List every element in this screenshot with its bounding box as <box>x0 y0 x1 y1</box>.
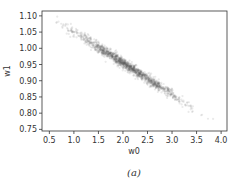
x-tick-label: 1.5 <box>92 136 105 145</box>
x-tick-label: 3.0 <box>166 136 179 145</box>
y-axis-label: w1 <box>3 65 12 77</box>
x-tick-label: 4.0 <box>215 136 228 145</box>
y-tick-label: 1.05 <box>19 28 37 37</box>
scatter-points <box>55 16 214 120</box>
y-tick-label: 0.85 <box>19 93 37 102</box>
x-tick-label: 2.5 <box>141 136 154 145</box>
y-tick-label: 0.75 <box>19 125 37 134</box>
y-tick-label: 1.00 <box>19 44 37 53</box>
x-axis-ticks: 0.51.01.52.02.53.03.54.0 <box>43 131 227 145</box>
figure-caption: (a) <box>127 167 141 178</box>
x-tick-label: 2.0 <box>117 136 130 145</box>
y-tick-label: 0.95 <box>19 61 37 70</box>
x-axis-label: w0 <box>128 147 140 156</box>
y-tick-label: 0.90 <box>19 77 37 86</box>
x-tick-label: 0.5 <box>43 136 56 145</box>
x-tick-label: 3.5 <box>190 136 203 145</box>
y-tick-label: 0.80 <box>19 109 37 118</box>
scatter-chart: 0.51.01.52.02.53.03.54.0 0.750.800.850.9… <box>0 0 237 184</box>
x-tick-label: 1.0 <box>68 136 81 145</box>
y-tick-label: 1.10 <box>19 12 37 21</box>
y-axis-ticks: 0.750.800.850.900.951.001.051.10 <box>19 12 42 135</box>
